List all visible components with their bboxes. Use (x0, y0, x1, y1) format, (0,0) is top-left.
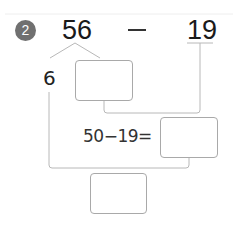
answer-box-2[interactable] (160, 117, 218, 158)
decomposed-part: 6 (43, 66, 56, 90)
minuend: 56 (62, 15, 92, 45)
equation-label: 50−19= (83, 126, 152, 146)
answer-box-1[interactable] (75, 60, 133, 101)
problem-number-badge: 2 (15, 20, 36, 41)
answer-box-3[interactable] (90, 173, 147, 214)
subtrahend: 19 (187, 15, 217, 45)
minus-sign (128, 29, 146, 31)
